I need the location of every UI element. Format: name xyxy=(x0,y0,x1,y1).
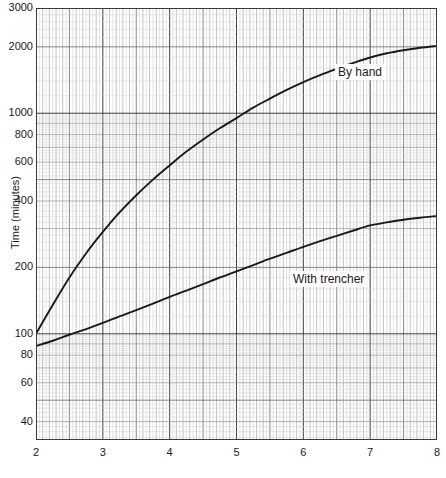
y-tick-label: 800 xyxy=(1,129,33,140)
curve-label-with-trencher: With trencher xyxy=(290,271,367,287)
x-tick-label: 4 xyxy=(158,447,182,458)
y-tick-label: 80 xyxy=(1,349,33,360)
x-tick-label: 7 xyxy=(358,447,382,458)
data-curve-with-trencher xyxy=(36,216,437,346)
y-tick-label: 3000 xyxy=(1,2,33,13)
x-tick-label: 2 xyxy=(24,447,48,458)
x-tick-label: 3 xyxy=(91,447,115,458)
x-tick-label: 5 xyxy=(225,447,249,458)
y-axis-title: Time (minutes) xyxy=(10,148,21,278)
y-tick-label: 60 xyxy=(1,377,33,388)
chart-container: 406080100200400600800100020003000 234567… xyxy=(0,0,446,478)
x-tick-label: 6 xyxy=(291,447,315,458)
y-tick-label: 40 xyxy=(1,416,33,427)
y-tick-label: 1000 xyxy=(1,107,33,118)
y-tick-label: 100 xyxy=(1,328,33,339)
curve-label-by-hand: By hand xyxy=(335,64,385,80)
data-curve-by-hand xyxy=(36,46,437,334)
x-tick-label: 8 xyxy=(425,447,446,458)
y-tick-label: 2000 xyxy=(1,41,33,52)
